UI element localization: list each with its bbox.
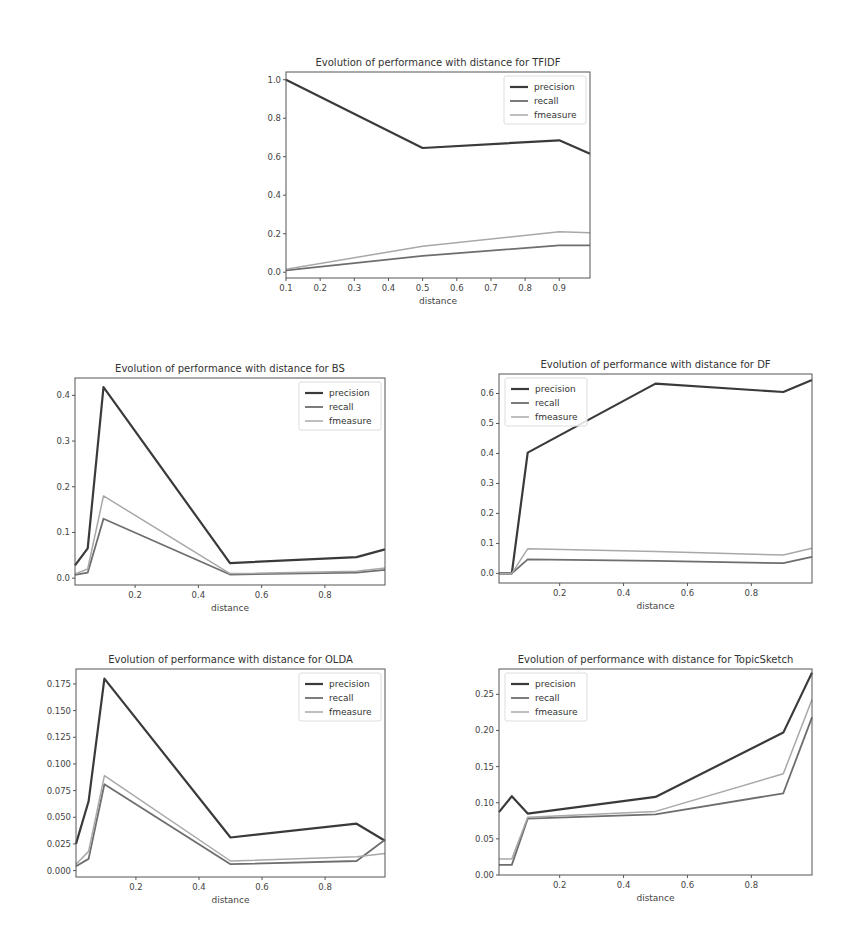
x-tick-label: 0.8 <box>745 588 759 598</box>
legend-label-precision: precision <box>535 679 576 689</box>
x-tick-label: 0.6 <box>681 588 695 598</box>
x-tick-label: 0.8 <box>745 880 759 890</box>
x-tick-label: 0.4 <box>192 590 206 600</box>
y-tick-label: 0.1 <box>480 538 494 548</box>
x-tick-label: 0.8 <box>318 590 332 600</box>
x-axis-label: distance <box>211 895 250 905</box>
legend: precisionrecallfmeasure <box>505 673 587 721</box>
x-tick-label: 0.5 <box>416 283 430 293</box>
y-tick-label: 0.3 <box>480 478 494 488</box>
y-tick-label: 0.125 <box>47 732 71 742</box>
x-tick-label: 0.2 <box>553 880 567 890</box>
legend: precisionrecallfmeasure <box>504 76 586 124</box>
legend-label-recall: recall <box>534 96 559 106</box>
x-tick-label: 0.8 <box>318 882 332 892</box>
y-tick-label: 0.2 <box>56 482 70 492</box>
chart-tfidf: Evolution of performance with distance f… <box>238 52 596 316</box>
chart-olda: Evolution of performance with distance f… <box>28 649 391 915</box>
chart-title: Evolution of performance with distance f… <box>115 363 345 374</box>
cropped-caption-fragment <box>0 928 857 943</box>
y-tick-label: 0.25 <box>475 689 494 699</box>
x-tick-label: 0.4 <box>617 880 631 890</box>
x-tick-label: 0.6 <box>450 283 464 293</box>
x-tick-label: 0.3 <box>348 283 362 293</box>
legend-label-fmeasure: fmeasure <box>535 412 578 422</box>
y-tick-label: 0.3 <box>56 436 70 446</box>
series-recall <box>499 557 812 574</box>
legend: precisionrecallfmeasure <box>505 378 587 426</box>
series-fmeasure <box>76 776 385 865</box>
legend-label-recall: recall <box>535 693 560 703</box>
legend-label-precision: precision <box>329 388 370 398</box>
y-tick-label: 0.2 <box>480 508 494 518</box>
chart-title: Evolution of performance with distance f… <box>316 57 561 68</box>
legend-label-fmeasure: fmeasure <box>535 707 578 717</box>
x-tick-label: 0.9 <box>552 283 566 293</box>
chart-bs: Evolution of performance with distance f… <box>27 358 391 623</box>
y-tick-label: 1.0 <box>267 75 281 85</box>
y-tick-label: 0.4 <box>267 190 281 200</box>
x-tick-label: 0.2 <box>129 882 143 892</box>
y-tick-label: 0.0 <box>267 267 281 277</box>
df-svg: Evolution of performance with distance f… <box>451 354 818 617</box>
x-tick-label: 0.4 <box>617 588 631 598</box>
y-tick-label: 0.4 <box>480 448 494 458</box>
x-tick-label: 0.2 <box>553 588 567 598</box>
legend-label-recall: recall <box>535 398 560 408</box>
y-tick-label: 0.10 <box>475 798 494 808</box>
x-tick-label: 0.6 <box>681 880 695 890</box>
y-tick-label: 0.4 <box>56 390 70 400</box>
bs-svg: Evolution of performance with distance f… <box>27 358 391 619</box>
y-tick-label: 0.05 <box>475 834 494 844</box>
y-tick-label: 0.2 <box>267 229 281 239</box>
y-tick-label: 0.6 <box>480 388 494 398</box>
tfidf-svg: Evolution of performance with distance f… <box>238 52 596 312</box>
x-tick-label: 0.6 <box>255 590 269 600</box>
y-tick-label: 0.8 <box>267 113 281 123</box>
x-tick-label: 0.4 <box>192 882 206 892</box>
legend-label-fmeasure: fmeasure <box>329 707 372 717</box>
legend-label-fmeasure: fmeasure <box>329 416 372 426</box>
olda-svg: Evolution of performance with distance f… <box>28 649 391 911</box>
topicsketch-svg: Evolution of performance with distance f… <box>451 649 818 909</box>
chart-df: Evolution of performance with distance f… <box>451 354 818 621</box>
y-tick-label: 0.175 <box>47 679 71 689</box>
legend-label-fmeasure: fmeasure <box>534 110 577 120</box>
chart-title: Evolution of performance with distance f… <box>108 654 353 665</box>
x-axis-label: distance <box>419 296 458 306</box>
y-tick-label: 0.6 <box>267 152 281 162</box>
y-tick-label: 0.0 <box>480 568 494 578</box>
y-tick-label: 0.100 <box>47 759 71 769</box>
legend: precisionrecallfmeasure <box>299 382 381 430</box>
legend-label-recall: recall <box>329 693 354 703</box>
chart-title: Evolution of performance with distance f… <box>518 654 794 665</box>
series-fmeasure <box>499 699 812 859</box>
legend-label-precision: precision <box>534 82 575 92</box>
legend-label-precision: precision <box>535 384 576 394</box>
y-tick-label: 0.075 <box>47 786 71 796</box>
x-tick-label: 0.8 <box>518 283 532 293</box>
x-tick-label: 0.1 <box>279 283 293 293</box>
legend-label-recall: recall <box>329 402 354 412</box>
y-tick-label: 0.20 <box>475 725 494 735</box>
legend-label-precision: precision <box>329 679 370 689</box>
series-recall <box>75 519 385 575</box>
chart-topicsketch: Evolution of performance with distance f… <box>451 649 818 913</box>
series-recall <box>286 245 590 270</box>
y-tick-label: 0.0 <box>56 573 70 583</box>
y-tick-label: 0.5 <box>480 418 494 428</box>
x-tick-label: 0.6 <box>255 882 269 892</box>
series-recall <box>499 717 812 865</box>
x-axis-label: distance <box>211 603 250 613</box>
y-tick-label: 0.15 <box>475 762 494 772</box>
x-axis-label: distance <box>636 893 675 903</box>
series-fmeasure <box>286 232 590 269</box>
x-tick-label: 0.2 <box>128 590 142 600</box>
y-tick-label: 0.050 <box>47 812 71 822</box>
y-tick-label: 0.025 <box>47 839 71 849</box>
x-tick-label: 0.7 <box>484 283 498 293</box>
y-tick-label: 0.00 <box>475 870 494 880</box>
chart-title: Evolution of performance with distance f… <box>540 359 770 370</box>
y-tick-label: 0.1 <box>56 527 70 537</box>
x-tick-label: 0.2 <box>313 283 327 293</box>
